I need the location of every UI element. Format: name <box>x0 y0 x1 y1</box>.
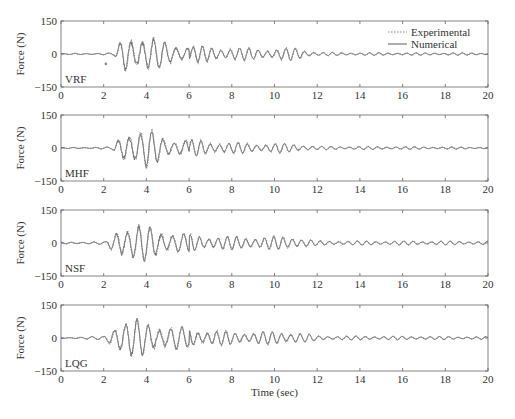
x-tick-label: 4 <box>144 89 150 101</box>
x-tick-label: 14 <box>354 183 366 195</box>
x-tick-label: 20 <box>483 183 495 195</box>
x-tick-label: 2 <box>101 373 107 385</box>
x-tick-label: 4 <box>144 373 150 385</box>
legend-numerical-label: Numerical <box>411 38 457 50</box>
x-tick-label: 0 <box>58 89 64 101</box>
x-tick-label: 20 <box>483 89 495 101</box>
y-tick-label: 150 <box>41 15 58 27</box>
y-tick-label: 150 <box>41 204 58 216</box>
x-tick-label: 12 <box>312 89 323 101</box>
y-axis-label: Force (N) <box>14 316 27 359</box>
x-tick-label: 14 <box>354 89 366 101</box>
y-tick-label: −150 <box>34 365 57 377</box>
x-tick-label: 0 <box>58 183 64 195</box>
axes-frame <box>61 115 488 181</box>
y-tick-label: 150 <box>41 109 58 121</box>
x-tick-label: 4 <box>144 183 150 195</box>
y-tick-label: 0 <box>52 332 58 344</box>
legend-experimental-label: Experimental <box>411 26 470 38</box>
x-tick-label: 10 <box>269 278 281 290</box>
x-tick-label: 18 <box>440 278 452 290</box>
x-tick-label: 16 <box>397 89 409 101</box>
x-tick-label: 6 <box>186 373 192 385</box>
x-tick-label: 10 <box>269 89 281 101</box>
x-tick-label: 12 <box>312 278 323 290</box>
experimental-series-line <box>61 129 488 168</box>
force-time-figure: 024681012141618201500−150Force (N)VRF024… <box>0 0 515 419</box>
panel-label: VRF <box>65 73 86 85</box>
x-tick-label: 0 <box>58 278 64 290</box>
x-tick-label: 8 <box>229 183 235 195</box>
x-tick-label: 8 <box>229 373 235 385</box>
x-tick-label: 18 <box>440 373 452 385</box>
panel-lqg: 024681012141618201500−150Force (N)LQG <box>14 299 494 385</box>
x-tick-label: 12 <box>312 373 323 385</box>
x-tick-label: 20 <box>483 373 495 385</box>
y-tick-label: 150 <box>41 299 58 311</box>
x-tick-label: 6 <box>186 89 192 101</box>
panel-mhf: 024681012141618201500−150Force (N)MHF <box>14 109 494 195</box>
x-tick-label: 12 <box>312 183 323 195</box>
numerical-series-line <box>61 132 488 166</box>
legend: ExperimentalNumerical <box>388 26 470 50</box>
x-tick-label: 10 <box>269 183 281 195</box>
x-tick-label: 6 <box>186 183 192 195</box>
outlier-point <box>105 63 108 66</box>
x-tick-label: 18 <box>440 183 452 195</box>
y-axis-label: Force (N) <box>14 32 27 75</box>
y-axis-label: Force (N) <box>14 126 27 169</box>
x-tick-label: 8 <box>229 278 235 290</box>
x-tick-label: 16 <box>397 183 409 195</box>
x-tick-label: 16 <box>397 278 409 290</box>
x-tick-label: 2 <box>101 183 107 195</box>
panel-label: NSF <box>65 262 85 274</box>
x-tick-label: 14 <box>354 278 366 290</box>
x-axis-label: Time (sec) <box>251 386 298 399</box>
y-axis-label: Force (N) <box>14 221 27 264</box>
x-tick-label: 2 <box>101 278 107 290</box>
y-tick-label: 0 <box>52 142 58 154</box>
y-tick-label: −150 <box>34 81 57 93</box>
x-tick-label: 20 <box>483 278 495 290</box>
panel-nsf: 024681012141618201500−150Force (N)NSF <box>14 204 494 290</box>
x-tick-label: 0 <box>58 373 64 385</box>
panel-label: LQG <box>65 357 88 369</box>
x-tick-label: 14 <box>354 373 366 385</box>
x-tick-label: 18 <box>440 89 452 101</box>
y-tick-label: 0 <box>52 237 58 249</box>
numerical-series-line <box>61 226 488 262</box>
numerical-series-line <box>61 319 488 356</box>
y-tick-label: 0 <box>52 48 58 60</box>
x-tick-label: 4 <box>144 278 150 290</box>
x-tick-label: 10 <box>269 373 281 385</box>
x-tick-label: 6 <box>186 278 192 290</box>
y-tick-label: −150 <box>34 175 57 187</box>
y-tick-label: −150 <box>34 270 57 282</box>
x-tick-label: 2 <box>101 89 107 101</box>
panel-label: MHF <box>65 167 89 179</box>
x-tick-label: 16 <box>397 373 409 385</box>
x-tick-label: 8 <box>229 89 235 101</box>
